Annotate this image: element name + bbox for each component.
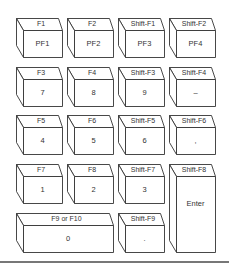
key-pf1: F1PF1 <box>16 18 65 59</box>
key-top-label: F4 <box>71 69 114 76</box>
key-front-label: Enter <box>176 199 215 208</box>
key-top-label: Shift-F3 <box>122 69 165 76</box>
key-front-label: 2 <box>74 185 113 194</box>
key-front-label: PF4 <box>176 39 215 48</box>
key-front-label: PF1 <box>23 39 62 48</box>
key-period: Shift-F9. <box>118 213 167 254</box>
key-outline <box>169 164 218 254</box>
key-front-label: , <box>176 136 215 145</box>
key-minus: Shift-F4– <box>169 67 218 108</box>
key-top-label: Shift-F5 <box>122 117 165 124</box>
key-front-label: 6 <box>125 136 164 145</box>
key-k8: F48 <box>67 67 116 108</box>
key-top-label: Shift-F9 <box>122 215 165 222</box>
key-top-label: F1 <box>20 20 63 27</box>
key-front-label: – <box>176 88 215 97</box>
key-top-label: F3 <box>20 69 63 76</box>
key-front-label: 8 <box>74 88 113 97</box>
key-k0: F9 or F100 <box>16 213 116 254</box>
key-k7: F37 <box>16 67 65 108</box>
bottom-rule <box>0 261 229 263</box>
key-top-label: Shift-F1 <box>122 20 165 27</box>
key-front-label: PF2 <box>74 39 113 48</box>
key-k6: Shift-F56 <box>118 115 167 156</box>
key-front-label: 9 <box>125 88 164 97</box>
key-top-label: F8 <box>71 166 114 173</box>
key-top-label: Shift-F6 <box>173 117 216 124</box>
keypad-diagram: F1PF1F2PF2Shift-F1PF3Shift-F2PF4F37F48Sh… <box>0 0 229 268</box>
key-k3: Shift-F73 <box>118 164 167 205</box>
key-k5: F65 <box>67 115 116 156</box>
key-k9: Shift-F39 <box>118 67 167 108</box>
key-pf4: Shift-F2PF4 <box>169 18 218 59</box>
key-top-label: F2 <box>71 20 114 27</box>
key-pf2: F2PF2 <box>67 18 116 59</box>
key-top-label: F5 <box>20 117 63 124</box>
key-top-label: Shift-F7 <box>122 166 165 173</box>
key-k2: F82 <box>67 164 116 205</box>
key-top-label: Shift-F8 <box>173 166 216 173</box>
key-top-label: F6 <box>71 117 114 124</box>
key-front-label: . <box>125 234 164 243</box>
key-front-label: 7 <box>23 88 62 97</box>
key-k1: F71 <box>16 164 65 205</box>
key-top-label: F7 <box>20 166 63 173</box>
key-enter: Shift-F8Enter <box>169 164 218 254</box>
key-pf3: Shift-F1PF3 <box>118 18 167 59</box>
key-top-label: Shift-F4 <box>173 69 216 76</box>
key-front-label: 4 <box>23 136 62 145</box>
key-comma: Shift-F6, <box>169 115 218 156</box>
key-front-label: 5 <box>74 136 113 145</box>
key-front-label: 3 <box>125 185 164 194</box>
key-k4: F54 <box>16 115 65 156</box>
key-top-label: Shift-F2 <box>173 20 216 27</box>
key-top-label: F9 or F10 <box>20 215 114 222</box>
key-front-label: PF3 <box>125 39 164 48</box>
key-front-label: 1 <box>23 185 62 194</box>
key-front-label: 0 <box>23 234 113 243</box>
